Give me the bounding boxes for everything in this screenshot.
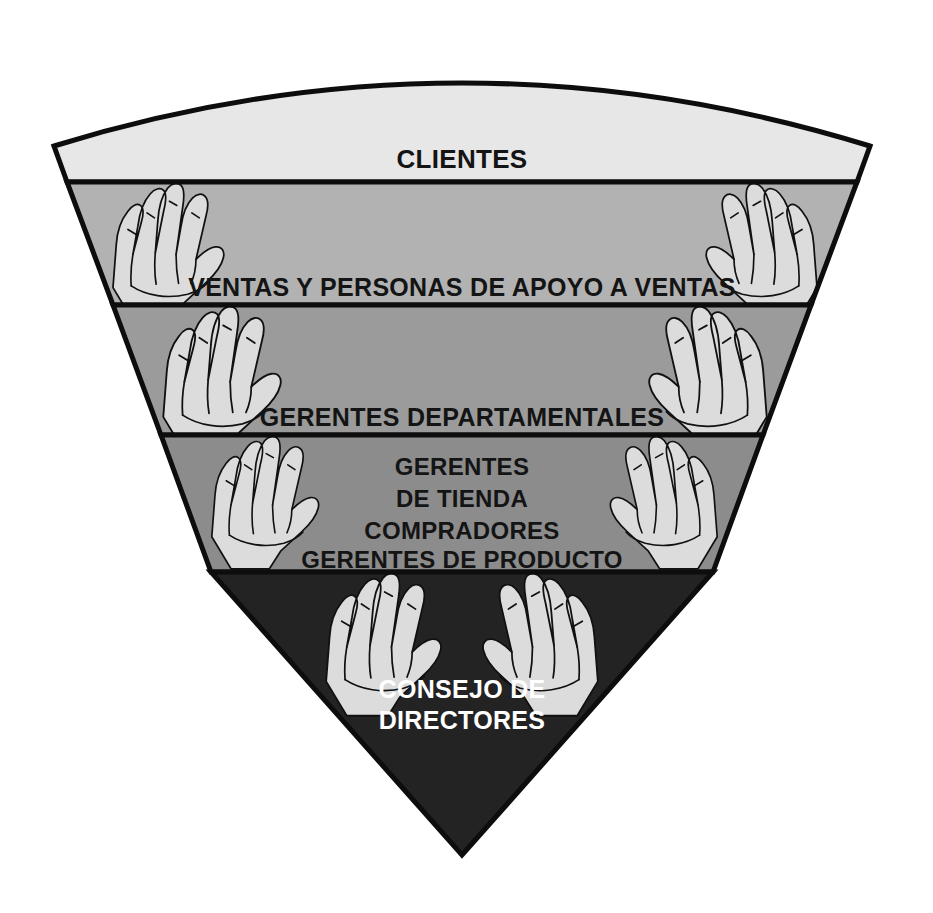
level-consejo[interactable]: CONSEJO DE DIRECTORES <box>211 572 713 855</box>
diagram-canvas: CLIENTES VENTAS Y PERSONAS DE APOYO A VE… <box>0 0 933 913</box>
inverted-pyramid-diagram: CLIENTES VENTAS Y PERSONAS DE APOYO A VE… <box>0 0 933 913</box>
level-gerentes-departamentales[interactable]: GERENTES DEPARTAMENTALES <box>113 305 811 452</box>
level-gerentes-tienda-label-3: COMPRADORES <box>364 517 559 544</box>
level-gerentes-tienda[interactable]: GERENTES DE TIENDA COMPRADORES GERENTES … <box>161 435 763 573</box>
level-consejo-label-1: CONSEJO DE <box>379 675 546 703</box>
level-ventas[interactable]: VENTAS Y PERSONAS DE APOYO A VENTAS <box>67 182 857 321</box>
level-gerentes-tienda-label-4: GERENTES DE PRODUCTO <box>301 546 623 573</box>
level-gerentes-departamentales-label: GERENTES DEPARTAMENTALES <box>260 403 664 431</box>
level-clientes[interactable]: CLIENTES <box>54 83 870 182</box>
level-clientes-label: CLIENTES <box>397 144 528 174</box>
level-ventas-label: VENTAS Y PERSONAS DE APOYO A VENTAS <box>188 273 736 301</box>
level-consejo-label-2: DIRECTORES <box>379 706 545 734</box>
level-gerentes-tienda-label-1: GERENTES <box>395 453 529 480</box>
level-gerentes-tienda-label-2: DE TIENDA <box>396 485 528 512</box>
